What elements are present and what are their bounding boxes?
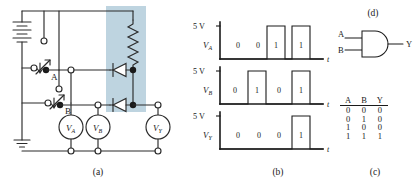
vy-level-label: 5 V (193, 112, 205, 121)
vb-bit-3: 1 (299, 86, 303, 95)
vb-bit-0: 0 (233, 86, 237, 95)
terminal-vy-top (155, 102, 161, 108)
cell-a: 1 (340, 132, 356, 141)
vy-bit-2: 0 (277, 131, 281, 140)
cell-y: 1 (372, 132, 388, 141)
terminal-b-junction (95, 102, 101, 108)
terminal-b-high (56, 86, 62, 92)
cell-b: 1 (356, 132, 372, 141)
terminal-a-left (31, 65, 37, 71)
vb-bit-2: 0 (277, 86, 281, 95)
ground-symbol (14, 140, 30, 147)
vb-bit-1: 1 (255, 86, 259, 95)
caption-a: (a) (70, 167, 126, 177)
va-bit-2: 1 (274, 41, 278, 50)
node-diode-a-out (130, 67, 136, 73)
highlight-region (106, 6, 146, 112)
va-axis-label-t: t (327, 55, 330, 64)
vb-axis-label-t: t (327, 100, 330, 109)
terminal-a-high (41, 38, 47, 44)
terminal-b-left-dot (45, 100, 51, 106)
waveform-vy (217, 112, 324, 149)
vy-bit-3: 1 (299, 131, 303, 140)
va-trace-label: VA (203, 40, 212, 51)
caption-c: (c) (345, 167, 405, 177)
vy-bit-1: 0 (257, 131, 261, 140)
vy-trace-label: VY (203, 130, 212, 141)
gate-output-label: Y (406, 39, 412, 49)
waveform-panel: 5 V VA t 0 0 1 1 5 V VB t 0 1 0 1 (193, 0, 343, 189)
waveform-va (217, 22, 324, 59)
terminal-vy-bottom (155, 148, 161, 154)
vy-axis-label-t: t (327, 145, 330, 154)
va-level-label: 5 V (193, 22, 205, 31)
vb-level-label: 5 V (193, 67, 205, 76)
gate-input-a-label: A (338, 29, 345, 39)
vy-bit-0: 0 (236, 131, 240, 140)
terminal-va-bottom (68, 148, 74, 154)
terminal-vb-bottom (95, 148, 101, 154)
caption-d: (d) (343, 8, 403, 18)
gate-input-b-label: B (338, 45, 344, 55)
terminal-a-junction (68, 67, 74, 73)
and-gate-body (362, 31, 388, 57)
logic-gate-panel: (d) A B Y (335, 8, 419, 78)
vb-trace-label: VB (203, 85, 212, 96)
va-bit-3: 1 (299, 41, 303, 50)
battery-symbol (13, 22, 31, 42)
truth-table: A B Y 0 0 0 0 1 0 1 0 0 1 1 (340, 96, 388, 141)
caption-b: (b) (250, 167, 306, 177)
va-bit-0: 0 (236, 41, 240, 50)
switch-a-label: A (51, 72, 58, 82)
va-bit-1: 0 (256, 41, 260, 50)
circuit-diagram-panel: A B (0, 0, 200, 189)
table-row: 1 1 1 (340, 132, 388, 141)
